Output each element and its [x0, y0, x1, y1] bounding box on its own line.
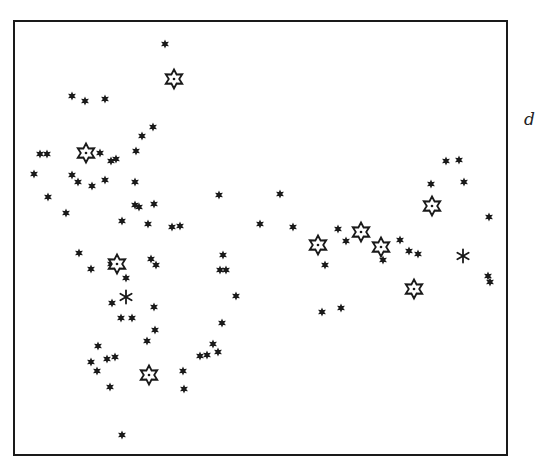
scatter-plot: [0, 0, 539, 475]
filled-star-icon: [455, 155, 463, 164]
filled-star-icon: [342, 236, 350, 245]
filled-star-icon: [405, 246, 413, 255]
filled-star-icon: [150, 199, 158, 208]
filled-star-icon: [289, 222, 297, 231]
filled-star-icon: [101, 94, 109, 103]
filled-star-icon: [87, 264, 95, 273]
filled-star-icon: [460, 177, 468, 186]
filled-star-icon: [209, 339, 217, 348]
filled-star-icon: [442, 156, 450, 165]
filled-star-icon: [176, 221, 184, 230]
filled-star-icon: [43, 149, 51, 158]
filled-star-icon: [337, 303, 345, 312]
filled-star-icon: [152, 260, 160, 269]
filled-star-icon: [87, 357, 95, 366]
filled-star-icon: [88, 181, 96, 190]
filled-star-icon: [122, 273, 130, 282]
filled-star-icon: [75, 248, 83, 257]
star-center-dot-icon: [380, 246, 383, 249]
star-center-dot-icon: [116, 263, 119, 266]
filled-star-icon: [484, 271, 492, 280]
filled-star-icon: [203, 350, 211, 359]
filled-star-icon: [36, 149, 44, 158]
star-center-dot-icon: [360, 231, 363, 234]
filled-star-icon: [179, 366, 187, 375]
filled-star-icon: [150, 302, 158, 311]
filled-star-icon: [30, 169, 38, 178]
filled-star-icon: [414, 249, 422, 258]
filled-star-icon: [214, 347, 222, 356]
filled-star-icon: [427, 179, 435, 188]
filled-star-icon: [396, 235, 404, 244]
filled-star-icon: [118, 430, 126, 439]
filled-star-icon: [106, 382, 114, 391]
filled-star-icon: [216, 265, 224, 274]
filled-star-icon: [117, 313, 125, 322]
star-center-dot-icon: [148, 374, 151, 377]
filled-star-icon: [94, 341, 102, 350]
filled-star-icon: [132, 146, 140, 155]
filled-star-icon: [161, 39, 169, 48]
star-center-dot-icon: [173, 78, 176, 81]
filled-star-icon: [318, 307, 326, 316]
filled-star-icon: [276, 189, 284, 198]
star-center-dot-icon: [317, 244, 320, 247]
filled-star-icon: [131, 177, 139, 186]
filled-star-icon: [128, 313, 136, 322]
star-center-dot-icon: [431, 205, 434, 208]
panel-label: d: [524, 109, 535, 129]
filled-star-icon: [118, 216, 126, 225]
filled-star-icon: [149, 122, 157, 131]
filled-star-icon: [138, 131, 146, 140]
filled-star-icon: [144, 219, 152, 228]
filled-star-icon: [103, 354, 111, 363]
filled-star-icon: [74, 177, 82, 186]
filled-star-icon: [81, 96, 89, 105]
filled-star-icon: [44, 192, 52, 201]
filled-star-icon: [62, 208, 70, 217]
filled-star-icon: [143, 336, 151, 345]
filled-star-icon: [168, 222, 176, 231]
filled-star-icon: [93, 366, 101, 375]
filled-star-icon: [321, 260, 329, 269]
filled-star-icon: [219, 250, 227, 259]
filled-star-icon: [486, 277, 494, 286]
star-center-dot-icon: [413, 288, 416, 291]
filled-star-icon: [151, 325, 159, 334]
filled-star-icon: [108, 298, 116, 307]
figure: d: [0, 0, 539, 475]
asterisk-icon: [457, 250, 468, 263]
star-center-dot-icon: [85, 152, 88, 155]
filled-star-icon: [180, 384, 188, 393]
filled-star-icon: [218, 318, 226, 327]
filled-star-icon: [232, 291, 240, 300]
filled-star-icon: [222, 265, 230, 274]
filled-star-icon: [96, 148, 104, 157]
filled-star-icon: [68, 91, 76, 100]
filled-star-icon: [334, 224, 342, 233]
filled-star-icon: [485, 212, 493, 221]
filled-star-icon: [215, 190, 223, 199]
filled-star-icon: [147, 254, 155, 263]
filled-star-icon: [68, 170, 76, 179]
asterisk-icon: [120, 291, 131, 304]
filled-star-icon: [111, 352, 119, 361]
filled-star-icon: [101, 175, 109, 184]
filled-star-icon: [196, 351, 204, 360]
filled-star-icon: [256, 219, 264, 228]
